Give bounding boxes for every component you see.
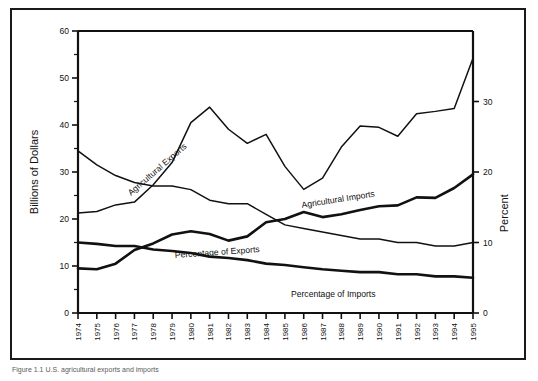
svg-text:1976: 1976 <box>112 322 121 340</box>
left-axis: 0102030405060 <box>60 26 78 318</box>
svg-text:1995: 1995 <box>469 322 478 340</box>
svg-text:10: 10 <box>483 238 493 248</box>
svg-text:30: 30 <box>483 97 493 107</box>
svg-text:1980: 1980 <box>187 322 196 340</box>
svg-text:1989: 1989 <box>356 322 365 340</box>
svg-text:1982: 1982 <box>224 322 233 340</box>
svg-text:1992: 1992 <box>413 322 422 340</box>
svg-text:1975: 1975 <box>93 322 102 340</box>
series-lines <box>78 58 473 277</box>
svg-text:40: 40 <box>60 120 70 130</box>
figure-container: 0102030405060 0102030 197419751976197719… <box>0 0 538 381</box>
svg-text:1990: 1990 <box>375 322 384 340</box>
svg-text:60: 60 <box>60 26 70 36</box>
svg-text:0: 0 <box>64 308 69 318</box>
svg-text:10: 10 <box>60 261 70 271</box>
x-axis: 1974197519761977197819791980198119821983… <box>74 313 478 341</box>
y2-axis-title: Percent <box>498 194 510 232</box>
svg-text:20: 20 <box>60 214 70 224</box>
right-axis: 0102030 <box>473 97 493 319</box>
series-label-agricultural-imports: Agricultural Imports <box>301 189 376 210</box>
svg-text:1985: 1985 <box>281 322 290 340</box>
plot-frame <box>78 31 473 313</box>
svg-text:1991: 1991 <box>394 322 403 340</box>
svg-text:0: 0 <box>483 308 488 318</box>
chart-canvas: 0102030405060 0102030 197419751976197719… <box>0 0 538 381</box>
series-label-percentage-of-imports: Percentage of Imports <box>291 289 376 299</box>
svg-text:1993: 1993 <box>431 322 440 340</box>
y-axis-title: Billions of Dollars <box>28 129 40 214</box>
svg-text:1988: 1988 <box>337 322 346 340</box>
series-percentage-of-imports <box>78 243 473 278</box>
figure-caption: Figure 1.1 U.S. agricultural exports and… <box>12 366 522 374</box>
svg-text:1977: 1977 <box>130 322 139 340</box>
svg-text:1979: 1979 <box>168 322 177 340</box>
svg-text:1983: 1983 <box>243 322 252 340</box>
svg-text:1994: 1994 <box>450 322 459 340</box>
series-label-agricultural-exports: Agricultural Exports <box>126 141 189 197</box>
svg-text:1984: 1984 <box>262 322 271 340</box>
svg-text:1974: 1974 <box>74 322 83 340</box>
svg-text:1978: 1978 <box>149 322 158 340</box>
svg-text:50: 50 <box>60 73 70 83</box>
svg-text:1981: 1981 <box>206 322 215 340</box>
svg-text:1986: 1986 <box>300 322 309 340</box>
svg-text:30: 30 <box>60 167 70 177</box>
svg-text:20: 20 <box>483 167 493 177</box>
svg-text:1987: 1987 <box>319 322 328 340</box>
series-labels: Agricultural ExportsAgricultural Imports… <box>126 141 376 299</box>
